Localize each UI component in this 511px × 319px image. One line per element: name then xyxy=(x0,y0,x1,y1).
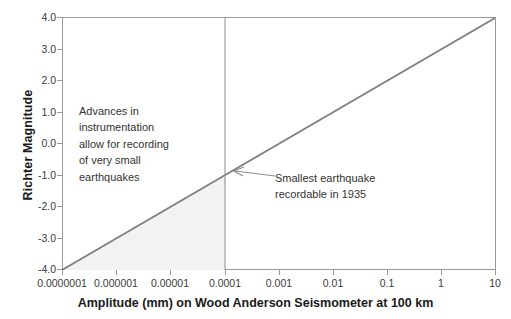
annotation-line: instrumentation xyxy=(79,119,209,135)
y-ticklabel: 2.0 xyxy=(20,74,56,86)
annotation-smallest-earthquake-note: Smallest earthquake recordable in 1935 xyxy=(275,170,435,203)
x-ticklabel: 1 xyxy=(438,277,444,289)
x-tickmark xyxy=(495,270,496,275)
x-tickmark xyxy=(387,270,388,275)
y-ticklabel: 3.0 xyxy=(20,43,56,55)
x-ticklabel: 0.0001 xyxy=(209,277,241,289)
x-ticklabel: 0.1 xyxy=(380,277,395,289)
annotation-arrow-icon xyxy=(228,165,276,191)
y-ticklabel: 1.0 xyxy=(20,106,56,118)
x-ticklabel: 0.001 xyxy=(266,277,292,289)
x-ticklabel: 0.01 xyxy=(323,277,343,289)
y-ticklabel: -2.0 xyxy=(20,200,56,212)
x-ticklabel: 0.00001 xyxy=(151,277,189,289)
x-axis-title: Amplitude (mm) on Wood Anderson Seismome… xyxy=(0,296,511,310)
y-ticklabel: 4.0 xyxy=(20,11,56,23)
annotation-line: Advances in xyxy=(79,103,209,119)
x-ticklabel: 0.000001 xyxy=(94,277,138,289)
annotation-line: Smallest earthquake xyxy=(275,170,435,186)
annotation-line: of very small xyxy=(79,152,209,168)
x-tickmark xyxy=(170,270,171,275)
x-tickmark xyxy=(441,270,442,275)
y-ticklabel: 0.0 xyxy=(20,137,56,149)
richter-magnitude-chart: Richter Magnitude 4.0 3.0 2.0 1.0 0.0 -1… xyxy=(0,0,511,319)
x-tickmark xyxy=(225,270,226,275)
x-tickmark xyxy=(279,270,280,275)
y-axis-ticklabels: 4.0 3.0 2.0 1.0 0.0 -1.0 -2.0 -3.0 -4.0 xyxy=(20,17,56,269)
x-tickmark xyxy=(62,270,63,275)
y-ticklabel: -3.0 xyxy=(20,232,56,244)
annotation-line: earthquakes xyxy=(79,169,209,185)
x-ticklabel: 10 xyxy=(489,277,501,289)
y-ticklabel: -1.0 xyxy=(20,169,56,181)
y-ticklabel: -4.0 xyxy=(20,263,56,275)
annotation-advances-note: Advances in instrumentation allow for re… xyxy=(79,103,209,185)
annotation-line: recordable in 1935 xyxy=(275,186,435,202)
x-tickmark xyxy=(116,270,117,275)
x-ticklabel: 0.0000001 xyxy=(37,277,87,289)
annotation-line: allow for recording xyxy=(79,136,209,152)
x-tickmark xyxy=(333,270,334,275)
